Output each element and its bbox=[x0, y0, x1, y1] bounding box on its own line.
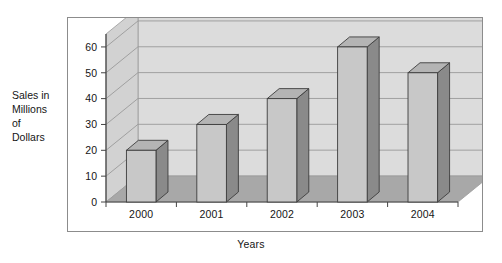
bar-side-face bbox=[156, 140, 168, 202]
x-category-label: 2004 bbox=[411, 208, 435, 220]
bar-side-face bbox=[226, 114, 238, 202]
bar-2000 bbox=[126, 140, 168, 202]
bar-front-face bbox=[197, 124, 227, 202]
y-tick-label: 30 bbox=[85, 118, 97, 130]
bar-side-face bbox=[367, 37, 379, 202]
bar-front-face bbox=[338, 47, 368, 202]
y-axis-title: Sales in Millions of Dollars bbox=[12, 88, 68, 144]
x-axis-title: Years bbox=[0, 238, 502, 250]
chart-canvas: 010203040506020002001200220032004 bbox=[85, 18, 482, 220]
bar-front-face bbox=[408, 73, 438, 202]
y-tick-label: 50 bbox=[85, 67, 97, 79]
x-category-label: 2003 bbox=[340, 208, 364, 220]
bar-side-face bbox=[438, 63, 450, 202]
bar-2004 bbox=[408, 63, 450, 202]
y-tick-label: 60 bbox=[85, 41, 97, 53]
y-tick-label: 40 bbox=[85, 92, 97, 104]
bar-2002 bbox=[267, 89, 309, 202]
bar-side-face bbox=[297, 89, 309, 202]
y-tick-label: 10 bbox=[85, 170, 97, 182]
bar-2003 bbox=[338, 37, 380, 202]
x-category-label: 2000 bbox=[129, 208, 153, 220]
bar-front-face bbox=[267, 99, 297, 202]
chart-plot-frame: 010203040506020002001200220032004 bbox=[67, 17, 483, 232]
bar-front-face bbox=[126, 150, 156, 202]
chart-screenshot: Sales in Millions of Dollars 01020304050… bbox=[0, 0, 502, 263]
bar-2001 bbox=[197, 114, 239, 202]
y-tick-label: 0 bbox=[91, 196, 97, 208]
x-category-label: 2002 bbox=[270, 208, 294, 220]
y-tick-label: 20 bbox=[85, 144, 97, 156]
x-category-label: 2001 bbox=[200, 208, 224, 220]
bar-chart-svg: 010203040506020002001200220032004 bbox=[68, 18, 482, 231]
